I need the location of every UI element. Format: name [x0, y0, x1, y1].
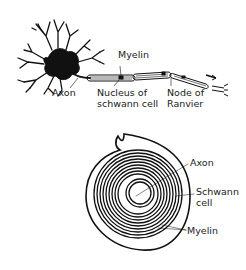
neuron-cell-body: [44, 49, 90, 80]
label-node-line1: Node of: [167, 88, 204, 98]
label-myelin-bottom: Myelin: [187, 226, 218, 236]
myelinated-axon: [70, 66, 228, 96]
label-nucleus-line1: Nucleus of: [97, 88, 147, 98]
label-schwann-line2: cell: [196, 198, 212, 208]
label-schwann-line1: Schwann: [196, 187, 239, 197]
label-myelin-top: Myelin: [118, 50, 149, 60]
label-axon-bottom: Axon: [190, 158, 214, 168]
label-axon-top: Axon: [52, 88, 76, 98]
myelin-cross-section: [86, 134, 194, 250]
label-nucleus-line2: schwann cell: [97, 99, 158, 109]
label-node-line2: Ranvier: [167, 99, 203, 109]
